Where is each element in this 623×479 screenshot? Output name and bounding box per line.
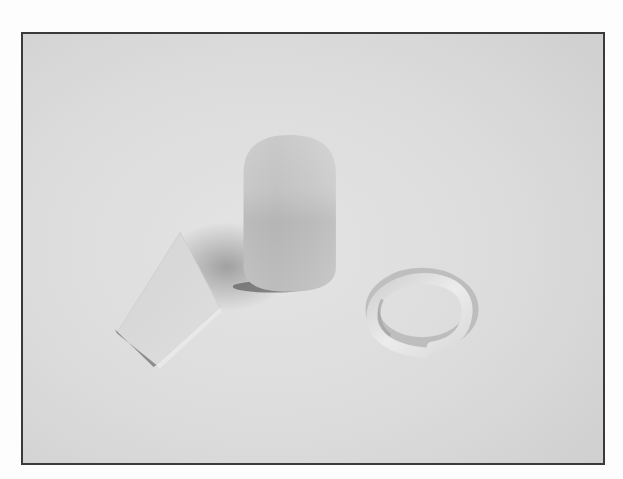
page: Grayscale photograph of three clay shape…	[0, 0, 623, 479]
photograph	[23, 34, 603, 463]
photo-frame	[21, 32, 605, 465]
capsule-cylinder	[233, 135, 336, 293]
